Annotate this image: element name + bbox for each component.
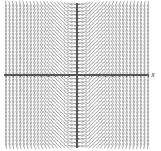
slope-field-plot: x [0,0,161,151]
slope-field-figure: x [0,0,161,151]
x-axis-label: x [150,70,155,79]
